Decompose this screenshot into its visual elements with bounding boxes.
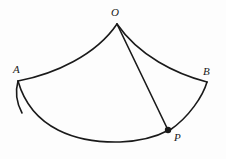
vertex-label-a: A — [13, 64, 20, 75]
point-p-marker — [165, 127, 171, 133]
vertex-label-b: B — [203, 66, 210, 77]
diagram-background — [0, 0, 226, 159]
vertex-label-p: P — [174, 132, 181, 143]
geometry-figure: O A B P — [0, 0, 226, 159]
vertex-label-o: O — [111, 7, 119, 18]
sector-diagram — [0, 0, 226, 159]
